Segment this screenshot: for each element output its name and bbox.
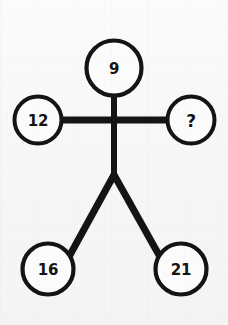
limb-right-leg (113, 173, 164, 264)
node-right-hand-label: ? (186, 111, 196, 131)
stick-figure-svg: 9 12 ? 16 21 (0, 0, 228, 325)
node-left-foot-label: 16 (38, 261, 58, 279)
node-left-hand-label: 12 (28, 112, 48, 130)
limb-left-leg (65, 173, 115, 264)
node-right-foot-label: 21 (171, 261, 191, 279)
node-head-label: 9 (109, 60, 119, 78)
puzzle-diagram: 9 12 ? 16 21 (0, 0, 228, 325)
